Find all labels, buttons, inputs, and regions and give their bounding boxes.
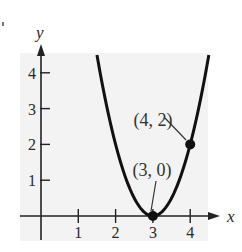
data-point bbox=[148, 211, 158, 221]
point-label: (3, 0) bbox=[133, 160, 172, 181]
x-tick-label: 1 bbox=[74, 224, 82, 241]
x-tick-label: 2 bbox=[112, 224, 120, 241]
x-tick-label: 4 bbox=[186, 224, 194, 241]
x-axis-label: x bbox=[226, 207, 235, 226]
data-point bbox=[185, 139, 195, 149]
parabola-chart: 12341234 (3, 0)(4, 2) x y bbox=[0, 0, 242, 252]
x-axis-arrow-icon bbox=[208, 212, 220, 220]
y-tick-label: 2 bbox=[28, 136, 36, 153]
y-axis-arrow-icon bbox=[37, 44, 45, 56]
point-label: (4, 2) bbox=[134, 110, 173, 131]
y-tick-label: 1 bbox=[28, 172, 36, 189]
x-tick-label: 3 bbox=[149, 224, 157, 241]
y-axis-label: y bbox=[34, 23, 44, 42]
plot-background bbox=[20, 53, 208, 241]
y-tick-label: 4 bbox=[28, 65, 36, 82]
y-tick-label: 3 bbox=[28, 101, 36, 118]
